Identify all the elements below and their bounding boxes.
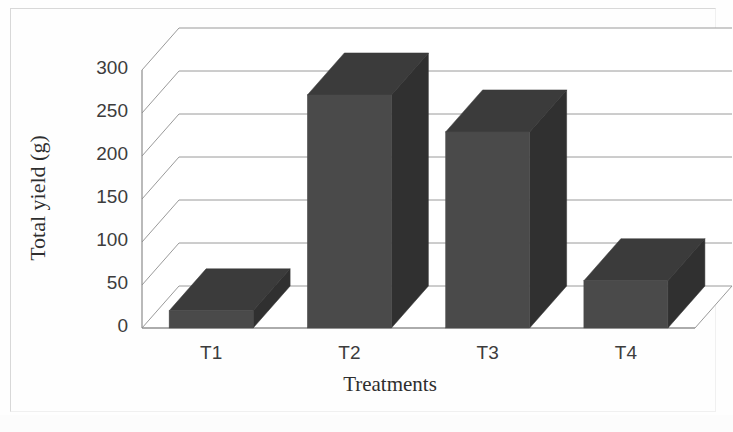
y-tick-label: 150	[68, 186, 128, 208]
bar-front-face	[169, 311, 253, 328]
y-tick-label: 100	[68, 229, 128, 251]
chart-figure: 050100150200250300 T1T2T3T4 Total yield …	[0, 0, 733, 432]
y-tick-label: 200	[68, 143, 128, 165]
y-axis-title: Total yield (g)	[25, 98, 51, 298]
y-tick-label: 300	[68, 57, 128, 79]
bar-side-face	[530, 90, 567, 328]
y-tick-label: 0	[68, 315, 128, 337]
x-axis-title: Treatments	[240, 372, 540, 397]
y-tick-label: 50	[68, 272, 128, 294]
x-tick-label: T1	[171, 342, 251, 364]
bar-front-face	[446, 132, 530, 328]
bar-front-face	[584, 281, 668, 328]
bar-t2	[307, 53, 428, 328]
bar-t3	[446, 90, 567, 328]
x-tick-label: T2	[309, 342, 389, 364]
y-tick-label: 250	[68, 100, 128, 122]
bar-side-face	[391, 53, 428, 328]
x-tick-label: T4	[586, 342, 666, 364]
x-tick-label: T3	[448, 342, 528, 364]
bar-front-face	[307, 95, 391, 328]
